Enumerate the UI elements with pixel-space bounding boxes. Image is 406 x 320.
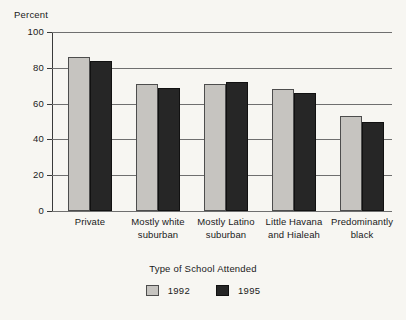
bar-1992-3 bbox=[272, 89, 294, 211]
y-axis-tick-label: 20 bbox=[10, 170, 44, 180]
gridline bbox=[52, 211, 392, 212]
legend-item-1992[interactable]: 1992 bbox=[146, 285, 190, 296]
legend-item-1995[interactable]: 1995 bbox=[216, 285, 260, 296]
y-axis-tick-label: 80 bbox=[10, 63, 44, 73]
y-axis-tick-labels: 020406080100 bbox=[8, 32, 44, 212]
y-axis-tick bbox=[47, 68, 52, 69]
bar-1995-2 bbox=[226, 82, 248, 211]
y-axis-tick bbox=[47, 139, 52, 140]
y-axis-tick bbox=[47, 32, 52, 33]
bar-1992-2 bbox=[204, 84, 226, 211]
chart-legend: 19921995 bbox=[0, 285, 406, 296]
bar-1995-4 bbox=[362, 122, 384, 212]
y-axis-tick-label: 40 bbox=[10, 134, 44, 144]
x-axis-category-labels: PrivateMostly whitesuburbanMostly Latino… bbox=[52, 216, 392, 256]
bar-chart-figure: Percent 020406080100 PrivateMostly white… bbox=[0, 0, 406, 320]
legend-label-1992: 1992 bbox=[168, 285, 190, 296]
category-label-4: Predominantlyblack bbox=[320, 216, 404, 241]
y-axis-tick bbox=[47, 104, 52, 105]
bar-1995-0 bbox=[90, 61, 112, 211]
y-axis-tick bbox=[47, 175, 52, 176]
bar-1992-4 bbox=[340, 116, 362, 211]
y-axis-line bbox=[52, 32, 53, 212]
bar-1992-0 bbox=[68, 57, 90, 211]
gridline bbox=[52, 32, 392, 33]
y-axis-tick bbox=[47, 211, 52, 212]
y-axis-title: Percent bbox=[14, 9, 48, 20]
bar-1992-1 bbox=[136, 84, 158, 211]
legend-swatch-1992 bbox=[146, 285, 159, 296]
plot-area bbox=[52, 32, 392, 211]
y-axis-tick-label: 60 bbox=[10, 99, 44, 109]
y-axis-tick-label: 100 bbox=[10, 27, 44, 37]
x-axis-title: Type of School Attended bbox=[0, 263, 406, 274]
legend-swatch-1995 bbox=[216, 285, 229, 296]
bar-1995-3 bbox=[294, 93, 316, 211]
y-axis-tick-label: 0 bbox=[10, 206, 44, 216]
bar-1995-1 bbox=[158, 88, 180, 212]
legend-label-1995: 1995 bbox=[238, 285, 260, 296]
